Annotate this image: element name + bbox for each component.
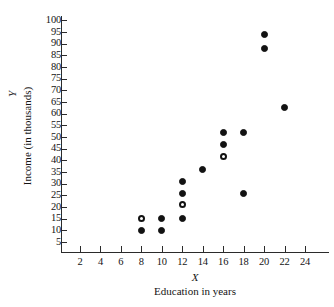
- data-point-filled: [261, 45, 268, 52]
- data-point-filled: [220, 141, 227, 148]
- y-tick: [62, 184, 67, 185]
- x-axis-caption: Education in years: [61, 285, 329, 297]
- y-tick-label-wrap: 95: [26, 27, 61, 38]
- y-tick: [62, 125, 67, 126]
- y-tick-label-wrap: 10: [26, 225, 61, 236]
- data-point-open: [138, 215, 145, 222]
- y-tick: [62, 242, 67, 243]
- y-tick: [62, 137, 67, 138]
- y-tick-label: 40: [35, 155, 61, 166]
- data-point-filled: [179, 215, 186, 222]
- x-tick: [80, 246, 81, 252]
- x-tick-label-wrap: 24: [293, 256, 317, 268]
- x-tick: [100, 246, 101, 252]
- y-tick: [62, 90, 67, 91]
- data-point-filled: [179, 178, 186, 185]
- data-point-filled: [281, 104, 288, 111]
- data-point-open: [220, 153, 227, 160]
- y-tick-label: 10: [35, 225, 61, 236]
- y-tick: [62, 160, 67, 161]
- y-tick: [62, 44, 67, 45]
- y-tick: [62, 149, 67, 150]
- y-tick: [62, 219, 67, 220]
- y-tick-label: 65: [35, 97, 61, 108]
- y-tick-label-wrap: 90: [26, 38, 61, 49]
- y-tick-label-wrap: 100: [26, 15, 61, 26]
- data-point-filled: [220, 129, 227, 136]
- y-tick: [62, 207, 67, 208]
- y-tick-label: 95: [35, 27, 61, 38]
- x-axis-line: [61, 252, 329, 253]
- y-tick-label: 75: [35, 73, 61, 84]
- y-tick-label: 5: [35, 237, 61, 248]
- y-tick-label: 100: [35, 15, 61, 26]
- x-tick: [223, 246, 224, 252]
- data-point-filled: [240, 129, 247, 136]
- data-point-filled: [261, 31, 268, 38]
- y-tick-label-wrap: 5: [26, 237, 61, 248]
- x-tick: [121, 246, 122, 252]
- data-point-open: [179, 201, 186, 208]
- x-tick: [203, 246, 204, 252]
- y-tick-label: 35: [35, 167, 61, 178]
- y-tick: [62, 20, 67, 21]
- plot-area: 5101520253035404550556065707580859095100…: [0, 0, 334, 307]
- data-point-filled: [240, 190, 247, 197]
- data-point-filled: [199, 166, 206, 173]
- y-tick-label: 80: [35, 62, 61, 73]
- y-tick: [62, 67, 67, 68]
- y-tick-label: 30: [35, 178, 61, 189]
- y-tick-label: 90: [35, 38, 61, 49]
- y-tick-label: 85: [35, 50, 61, 61]
- y-tick-label: 15: [35, 213, 61, 224]
- y-axis-title: Y: [6, 44, 18, 144]
- y-tick: [62, 172, 67, 173]
- y-tick-label: 25: [35, 190, 61, 201]
- y-tick-label: 45: [35, 143, 61, 154]
- x-axis-title: X: [61, 271, 329, 283]
- x-tick: [285, 246, 286, 252]
- y-tick: [62, 79, 67, 80]
- y-tick: [62, 102, 67, 103]
- x-tick: [162, 246, 163, 252]
- y-tick-label: 70: [35, 85, 61, 96]
- y-axis-line: [61, 16, 62, 253]
- x-tick: [244, 246, 245, 252]
- y-tick: [62, 32, 67, 33]
- x-tick: [182, 246, 183, 252]
- y-tick-label: 60: [35, 108, 61, 119]
- x-tick: [264, 246, 265, 252]
- y-tick: [62, 230, 67, 231]
- data-point-filled: [138, 227, 145, 234]
- x-tick-label: 24: [293, 256, 317, 267]
- y-tick: [62, 114, 67, 115]
- y-axis-caption: Income (in thousands): [21, 56, 33, 216]
- y-tick-label: 50: [35, 132, 61, 143]
- y-tick-label: 55: [35, 120, 61, 131]
- y-tick: [62, 195, 67, 196]
- data-point-filled: [179, 190, 186, 197]
- x-tick: [305, 246, 306, 252]
- data-point-filled: [158, 227, 165, 234]
- y-tick: [62, 55, 67, 56]
- x-tick: [141, 246, 142, 252]
- scatter-plot-figure: 5101520253035404550556065707580859095100…: [0, 0, 334, 307]
- y-tick-label: 20: [35, 202, 61, 213]
- data-point-filled: [158, 215, 165, 222]
